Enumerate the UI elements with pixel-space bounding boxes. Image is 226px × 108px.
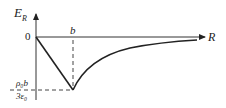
y-axis-label: ER (14, 6, 27, 23)
min-value-numerator: ρ₀b (16, 79, 28, 88)
field-diagram (0, 0, 226, 108)
x-axis-label: R (208, 31, 215, 43)
linear-segment (36, 37, 73, 90)
b-label: b (70, 25, 76, 36)
min-value-denominator: 3ε₀ (16, 92, 27, 101)
decay-curve (73, 40, 197, 90)
origin-label: 0 (25, 31, 31, 42)
